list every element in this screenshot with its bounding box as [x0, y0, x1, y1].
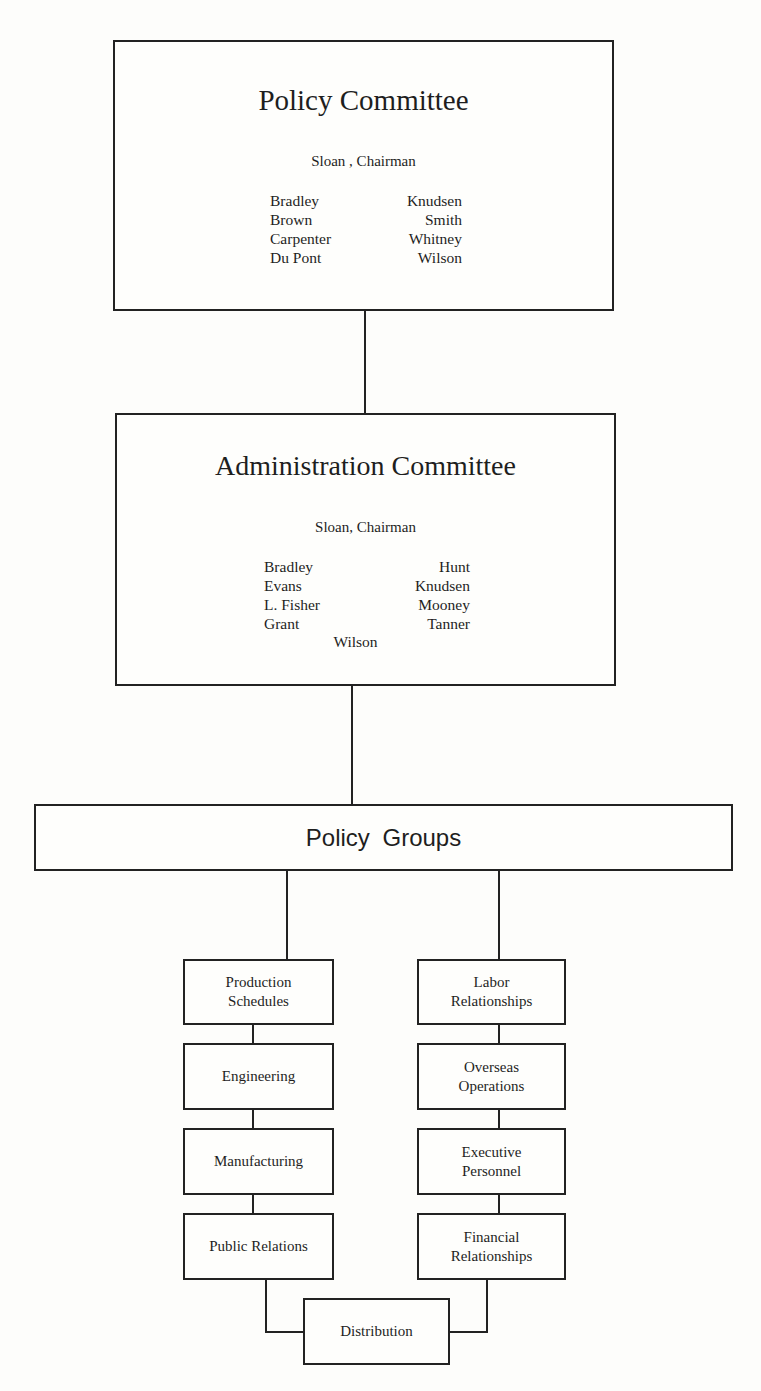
connector-line: [449, 1331, 488, 1333]
policy-group-label: Public Relations: [209, 1237, 308, 1256]
connector-line: [252, 1194, 254, 1214]
member: Mooney: [415, 595, 470, 614]
distribution-box: Distribution: [303, 1298, 450, 1365]
connector-line: [351, 685, 353, 805]
member: Smith: [407, 210, 462, 229]
connector-line: [364, 310, 366, 414]
member: Carpenter: [270, 229, 331, 248]
policy-group-box: Engineering: [183, 1043, 334, 1110]
connector-line: [498, 1109, 500, 1129]
member: Bradley: [264, 557, 320, 576]
member: Brown: [270, 210, 331, 229]
administration-committee-members-left: Bradley Evans L. Fisher Grant: [264, 557, 320, 633]
policy-committee-members-right: Knudsen Smith Whitney Wilson: [407, 191, 462, 267]
administration-committee-chairman: Sloan, Chairman: [117, 519, 614, 536]
policy-group-label: Engineering: [222, 1067, 295, 1086]
policy-group-box: Manufacturing: [183, 1128, 334, 1195]
member: Grant: [264, 614, 320, 633]
distribution-label: Distribution: [340, 1322, 413, 1341]
member: L. Fisher: [264, 595, 320, 614]
policy-groups-title: Policy Groups: [306, 824, 461, 852]
policy-group-box: Public Relations: [183, 1213, 334, 1280]
administration-committee-title: Administration Committee: [117, 450, 614, 482]
policy-group-label: Manufacturing: [214, 1152, 303, 1171]
member: Knudsen: [407, 191, 462, 210]
connector-line: [498, 1194, 500, 1214]
member: Du Pont: [270, 248, 331, 267]
policy-group-box: Financial Relationships: [417, 1213, 566, 1280]
policy-group-label: Financial Relationships: [451, 1228, 533, 1266]
member: Evans: [264, 576, 320, 595]
policy-committee-members-left: Bradley Brown Carpenter Du Pont: [270, 191, 331, 267]
connector-line: [252, 1024, 254, 1044]
connector-line: [498, 1024, 500, 1044]
policy-groups-box: Policy Groups: [34, 804, 733, 871]
administration-committee-members-right: Hunt Knudsen Mooney Tanner: [415, 557, 470, 633]
member: Bradley: [270, 191, 331, 210]
connector-line: [265, 1279, 267, 1333]
connector-line: [252, 1109, 254, 1129]
policy-group-label: Labor Relationships: [451, 973, 533, 1011]
member: Tanner: [415, 614, 470, 633]
member: Wilson: [407, 248, 462, 267]
policy-group-label: Overseas Operations: [459, 1058, 525, 1096]
member: Knudsen: [415, 576, 470, 595]
policy-committee-title: Policy Committee: [115, 84, 612, 117]
member: Hunt: [415, 557, 470, 576]
administration-committee-box: Administration Committee Sloan, Chairman…: [115, 413, 616, 686]
policy-group-box: Labor Relationships: [417, 959, 566, 1025]
policy-group-box: Executive Personnel: [417, 1128, 566, 1195]
policy-group-label: Production Schedules: [226, 973, 292, 1011]
member: Whitney: [407, 229, 462, 248]
policy-group-box: Production Schedules: [183, 959, 334, 1025]
policy-committee-chairman: Sloan , Chairman: [115, 153, 612, 170]
connector-line: [265, 1331, 304, 1333]
policy-committee-box: Policy Committee Sloan , Chairman Bradle…: [113, 40, 614, 311]
connector-line: [486, 1279, 488, 1333]
policy-group-label: Executive Personnel: [462, 1143, 522, 1181]
connector-line: [498, 870, 500, 960]
connector-line: [286, 870, 288, 960]
policy-group-box: Overseas Operations: [417, 1043, 566, 1110]
administration-committee-member-center: Wilson: [97, 633, 614, 651]
